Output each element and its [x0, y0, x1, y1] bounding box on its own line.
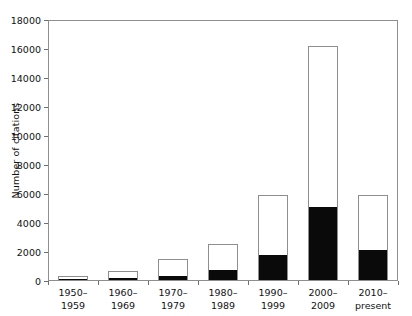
y-tick-label: 2000	[17, 246, 41, 259]
y-tick-label: 16000	[11, 43, 41, 56]
bar-4	[208, 244, 238, 281]
x-tick-mark	[198, 281, 199, 285]
bar-segment-upper	[208, 244, 238, 281]
bar-7	[358, 195, 388, 281]
y-tick-label: 12000	[11, 101, 41, 114]
y-tick-label: 6000	[17, 188, 41, 201]
y-tick-mark	[44, 223, 48, 224]
x-tick-mark	[148, 281, 149, 285]
bar-6	[308, 46, 338, 281]
y-tick-label: 10000	[11, 130, 41, 143]
y-tick-mark	[44, 78, 48, 79]
bar-segment-upper	[108, 271, 138, 281]
bar-segment-upper	[158, 259, 188, 281]
bar-segment-lower	[59, 279, 87, 280]
y-tick-label: 4000	[17, 217, 41, 230]
y-tick-mark	[44, 194, 48, 195]
y-tick-label: 14000	[11, 72, 41, 85]
bar-segment-lower	[359, 250, 387, 280]
bar-segment-lower	[109, 278, 137, 280]
citations-bar-chart: Number of citations 02000400060008000100…	[0, 0, 412, 316]
bar-segment-lower	[209, 270, 237, 280]
y-tick-mark	[44, 136, 48, 137]
y-tick-label: 18000	[11, 14, 41, 27]
x-tick-mark	[298, 281, 299, 285]
y-axis-title: Number of citations	[8, 20, 22, 281]
x-tick-mark	[398, 281, 399, 285]
bar-segment-lower	[159, 276, 187, 280]
bar-2	[108, 271, 138, 281]
y-tick-mark	[44, 107, 48, 108]
y-tick-label: 0	[35, 275, 41, 288]
bar-segment-upper	[308, 46, 338, 281]
bar-segment-lower	[309, 207, 337, 280]
y-tick-label: 8000	[17, 159, 41, 172]
y-tick-mark	[44, 20, 48, 21]
y-tick-mark	[44, 165, 48, 166]
bar-segment-upper	[358, 195, 388, 281]
bar-segment-upper	[58, 276, 88, 281]
x-tick-mark	[248, 281, 249, 285]
x-tick-mark	[348, 281, 349, 285]
bar-1	[58, 276, 88, 281]
bar-segment-upper	[258, 195, 288, 281]
y-tick-mark	[44, 49, 48, 50]
y-tick-mark	[44, 252, 48, 253]
x-tick-label: 2010– present	[338, 287, 408, 312]
plot-area	[48, 20, 398, 281]
bar-segment-lower	[259, 255, 287, 280]
bar-3	[158, 259, 188, 281]
x-tick-mark	[98, 281, 99, 285]
x-tick-mark	[48, 281, 49, 285]
bar-5	[258, 195, 288, 281]
